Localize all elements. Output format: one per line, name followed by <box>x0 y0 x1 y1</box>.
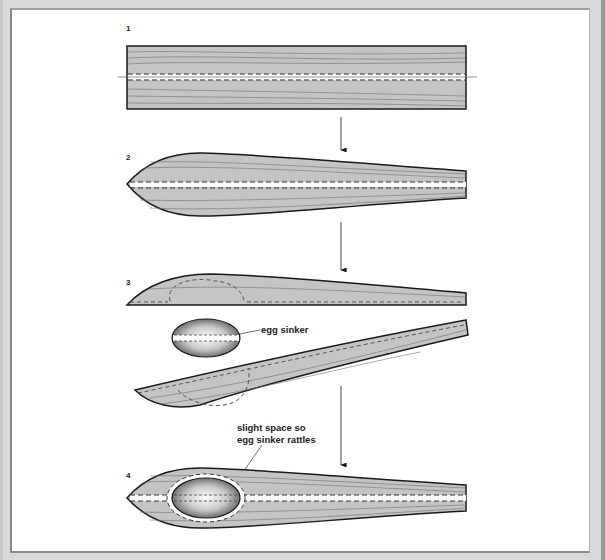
step-4: slight space so egg sinker rattles 4 <box>126 422 466 528</box>
step-3-label: 3 <box>126 278 131 287</box>
rattle-annotation-line2: egg sinker rattles <box>237 434 316 445</box>
step-2-label: 2 <box>126 153 131 162</box>
egg-sinker-leader-line <box>240 330 260 334</box>
step-1-label: 1 <box>126 24 131 33</box>
step-1: 1 <box>118 24 477 109</box>
center-cut-gap <box>130 182 466 187</box>
step-3: 3 egg sinker <box>126 274 468 407</box>
rattle-annotation-line1: slight space so <box>237 422 306 433</box>
lure-carving-diagram: 1 2 3 <box>0 0 605 560</box>
egg-sinker-label: egg sinker <box>261 324 309 335</box>
step-2: 2 <box>126 153 466 216</box>
upper-body-half <box>127 274 466 305</box>
egg-sinker-inside <box>172 478 240 518</box>
egg-sinker <box>172 319 240 357</box>
step-4-label: 4 <box>126 471 131 480</box>
